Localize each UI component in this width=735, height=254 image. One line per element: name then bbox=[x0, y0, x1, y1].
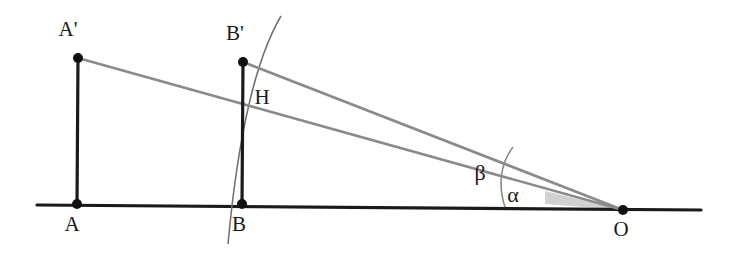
geometry-diagram-svg: A' A B' B H O β α bbox=[0, 0, 735, 254]
label-alpha: α bbox=[507, 182, 519, 207]
segment-b-to-b-prime bbox=[242, 62, 243, 204]
label-b: B bbox=[232, 212, 246, 236]
point-b bbox=[237, 199, 247, 209]
label-b-prime: B' bbox=[226, 21, 244, 45]
point-b-prime bbox=[238, 57, 248, 67]
point-a-prime bbox=[73, 53, 83, 63]
point-o bbox=[618, 205, 628, 215]
label-beta: β bbox=[474, 160, 485, 185]
label-a: A bbox=[64, 212, 80, 236]
arc-through-h-icon bbox=[228, 16, 281, 244]
label-o: O bbox=[613, 217, 628, 241]
label-a-prime: A' bbox=[59, 17, 78, 41]
ray-b-prime-to-o bbox=[243, 62, 623, 210]
point-a bbox=[72, 199, 82, 209]
ray-a-prime-to-o bbox=[78, 58, 623, 210]
label-h: H bbox=[254, 85, 269, 109]
geometry-diagram-canvas: A' A B' B H O β α bbox=[0, 0, 735, 254]
segment-a-to-a-prime bbox=[77, 58, 78, 205]
